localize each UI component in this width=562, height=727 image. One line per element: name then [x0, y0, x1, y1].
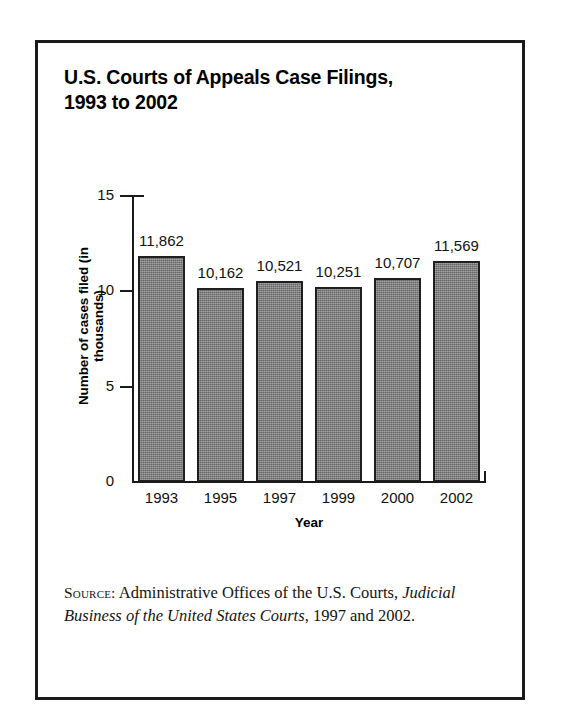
bar	[138, 256, 185, 482]
bar	[315, 287, 362, 482]
bar	[433, 261, 480, 482]
y-axis-tick-labels: 051015	[66, 151, 114, 491]
y-tick-label: 5	[74, 377, 114, 394]
y-axis-tick	[120, 386, 132, 388]
chart-plot-area: Number of cases filed (in thousands) 051…	[38, 151, 522, 541]
x-axis-right-cap	[484, 471, 486, 483]
bar-value-label: 11,569	[412, 237, 502, 254]
source-text-after: , 1997 and 2002.	[305, 606, 415, 625]
figure-title: U.S. Courts of Appeals Case Filings, 199…	[64, 65, 484, 115]
bar	[256, 281, 303, 482]
y-axis-top-cap	[132, 195, 144, 197]
bar-value-label: 11,862	[117, 232, 207, 249]
source-text-before: Administrative Offices of the U.S. Court…	[116, 583, 403, 602]
figure-frame: U.S. Courts of Appeals Case Filings, 199…	[35, 40, 525, 700]
y-tick-label: 10	[74, 281, 114, 298]
y-axis-tick	[120, 195, 132, 197]
x-axis-label: Year	[132, 515, 486, 530]
x-axis-left-cap	[132, 471, 134, 483]
y-tick-label: 0	[74, 472, 114, 489]
y-tick-label: 15	[74, 186, 114, 203]
bar-value-label: 10,707	[353, 254, 443, 271]
source-label: Source:	[64, 584, 116, 601]
bar	[197, 288, 244, 482]
source-note: Source: Administrative Offices of the U.…	[64, 581, 494, 627]
bar	[374, 278, 421, 482]
x-tick-label: 2002	[422, 489, 492, 506]
y-axis-tick	[120, 290, 132, 292]
